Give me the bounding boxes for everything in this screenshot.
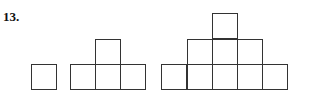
unit-square: [71, 65, 96, 90]
unit-square: [188, 40, 213, 65]
unit-square: [238, 65, 263, 90]
unit-square: [238, 40, 263, 65]
unit-square: [213, 65, 238, 90]
unit-square: [96, 40, 121, 65]
figure-3-nine-squares: [162, 14, 288, 90]
unit-square: [188, 65, 213, 90]
unit-square: [32, 65, 57, 90]
figure-1-single-square: [32, 65, 57, 90]
figure-2-four-squares: [71, 40, 146, 90]
unit-square: [213, 40, 238, 65]
unit-square: [213, 14, 238, 39]
pattern-diagram: [0, 0, 310, 97]
unit-square: [263, 65, 288, 90]
unit-square: [162, 65, 187, 90]
unit-square: [121, 65, 146, 90]
unit-square: [96, 65, 121, 90]
